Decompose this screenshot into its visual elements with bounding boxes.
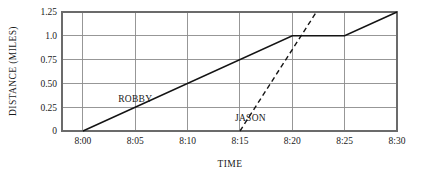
horizontal-gridlines — [62, 36, 397, 107]
x-axis-tick-label: 8:20 — [284, 136, 301, 146]
distance-vs-time-line-chart: 00.250.500.751.01.25 8:008:058:108:158:2… — [0, 0, 425, 172]
y-axis-tick-labels: 00.250.500.751.01.25 — [40, 7, 57, 136]
x-axis-tick-label: 8:05 — [127, 136, 144, 146]
y-axis-tick-label: 0.50 — [40, 79, 57, 89]
y-axis-tick-label: 1.0 — [45, 31, 57, 41]
x-axis-tick-labels: 8:008:058:108:158:208:258:30 — [74, 136, 405, 146]
series-label-jason: JASON — [235, 113, 266, 123]
series-inline-labels: ROBBYJASON — [118, 94, 266, 123]
x-axis-tick-label: 8:00 — [74, 136, 91, 146]
y-axis-tick-label: 1.25 — [40, 7, 57, 17]
series-label-robby: ROBBY — [118, 94, 152, 104]
y-axis-tick-label: 0.75 — [40, 55, 57, 65]
x-axis-tick-label: 8:30 — [389, 136, 406, 146]
chart-figure: 00.250.500.751.01.25 8:008:058:108:158:2… — [0, 0, 425, 172]
y-axis-tick-label: 0.25 — [40, 103, 57, 113]
x-axis-title: TIME — [218, 159, 243, 169]
y-axis-title: DISTANCE (MILES) — [8, 26, 19, 116]
x-axis-tick-label: 8:10 — [179, 136, 196, 146]
plot-area-border — [62, 12, 397, 131]
y-axis-tick-label: 0 — [52, 126, 57, 136]
x-axis-tick-label: 8:25 — [336, 136, 353, 146]
x-axis-tick-label: 8:15 — [232, 136, 249, 146]
